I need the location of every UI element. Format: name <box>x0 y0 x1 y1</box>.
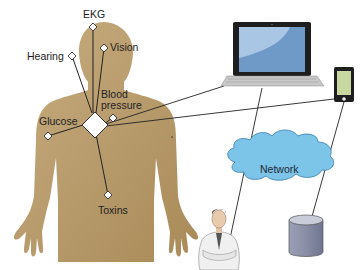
label-blood-pressure: Blood pressure <box>101 89 142 111</box>
label-toxins: Toxins <box>98 205 128 216</box>
label-ekg: EKG <box>83 9 105 20</box>
stray-dot <box>171 136 173 138</box>
laptop-icon[interactable] <box>221 22 324 86</box>
label-vision: Vision <box>110 42 138 53</box>
label-hearing: Hearing <box>27 51 64 62</box>
label-glucose: Glucose <box>39 116 78 127</box>
smartphone-icon[interactable] <box>334 67 354 102</box>
doctor-icon[interactable] <box>199 209 240 270</box>
body-sensor-network-diagram <box>0 0 362 270</box>
sensor-hearing[interactable] <box>68 52 76 60</box>
label-network: Network <box>260 163 299 175</box>
database-icon[interactable] <box>289 215 323 257</box>
